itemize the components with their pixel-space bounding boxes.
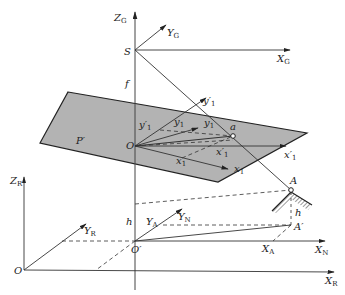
- yr-axis: [24, 224, 86, 270]
- line-oprime-to-aprime: [135, 225, 291, 241]
- label-yr: YR: [84, 225, 97, 238]
- label-o-r: O: [14, 265, 22, 276]
- coordinate-diagram: ZG YG XG S f P′ O y′1 y′1 y1 y1 a x1 x′1…: [0, 0, 345, 295]
- label-s: S: [124, 46, 131, 57]
- yg-axis: [135, 25, 166, 50]
- label-o: O: [126, 140, 134, 151]
- point-a: [231, 134, 236, 139]
- point-A: [289, 188, 294, 193]
- xr-axis: [24, 270, 334, 272]
- label-xg: XG: [276, 53, 290, 66]
- label-xa: XA: [261, 243, 275, 256]
- label-x1-prime-axis: x′1: [284, 149, 296, 162]
- label-A: A: [289, 175, 297, 186]
- label-a-prime: A′: [293, 221, 304, 232]
- label-f: f: [124, 78, 131, 89]
- label-h-right: h: [295, 207, 301, 218]
- ground-hatch: [272, 192, 312, 213]
- label-xr: XR: [324, 275, 338, 288]
- label-o-prime: O′: [131, 244, 142, 255]
- dash-aprime-to-xa: [273, 225, 291, 241]
- label-yn: YN: [178, 211, 191, 224]
- yn-axis: [135, 209, 182, 241]
- label-y1-prime-top: y′1: [202, 95, 215, 108]
- dash-h-level: [135, 190, 291, 204]
- label-xn: XN: [314, 244, 328, 257]
- label-p-prime: P′: [75, 135, 86, 146]
- label-a: a: [230, 121, 236, 132]
- label-ya: YA: [146, 216, 159, 229]
- label-h-left: h: [126, 216, 132, 227]
- label-zr: ZR: [9, 175, 23, 188]
- dash-oprime-to-xr: [96, 241, 135, 270]
- label-yg: YG: [167, 27, 180, 40]
- label-zg: ZG: [113, 12, 127, 25]
